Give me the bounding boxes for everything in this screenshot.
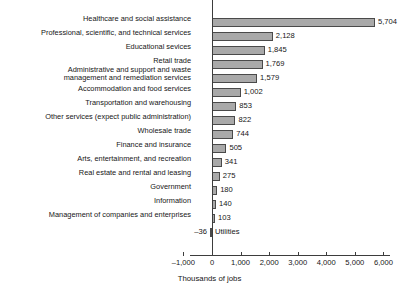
bar-value-label: 853 [239, 101, 252, 110]
bar-category-label: Wholesale trade [0, 127, 195, 135]
x-axis-tick [269, 252, 270, 256]
bar-row: Utilities–36Utilities [0, 225, 407, 239]
bar-row: Management of companies and enterprises1… [0, 211, 407, 225]
bar-value-label: 103 [218, 213, 231, 222]
bar-row: Information140 [0, 197, 407, 211]
bar-category-label: Administrative and support and waste man… [0, 66, 195, 83]
bar-value-label: 341 [225, 157, 238, 166]
bar-value-label: 180 [220, 185, 233, 194]
x-axis-tick [298, 252, 299, 256]
bar-row: Transportation and warehousing853 [0, 99, 407, 113]
bar-value-label: 1,579 [260, 73, 279, 82]
bar [212, 18, 375, 27]
bar [212, 102, 236, 111]
bar-value-label: 1,769 [266, 59, 285, 68]
bar-value-label: 140 [219, 199, 232, 208]
bar-category-label: Management of companies and enterprises [0, 211, 195, 219]
bar-category-label: Professional, scientific, and technical … [0, 29, 195, 37]
zero-axis-line [212, 0, 213, 252]
bar-category-label: Healthcare and social assistance [0, 15, 195, 23]
x-axis-tick-label: 2,000 [260, 258, 279, 267]
bar-row: Other services (expect public administra… [0, 113, 407, 127]
bar [212, 74, 257, 83]
bar-row: Healthcare and social assistance5,704 [0, 15, 407, 29]
bar-category-label: Other services (expect public administra… [0, 113, 195, 121]
bar-category-label: Arts, entertainment, and recreation [0, 155, 195, 163]
bar [212, 130, 233, 139]
x-axis-tick-label: 3,000 [288, 258, 307, 267]
bar-row: Educational sevices1,845 [0, 43, 407, 57]
bar-value-label: 505 [229, 143, 242, 152]
bar-row: Arts, entertainment, and recreation341 [0, 155, 407, 169]
bar-row: Finance and insurance505 [0, 141, 407, 155]
x-axis-tick-label: –1,000 [172, 258, 195, 267]
x-axis-tick [241, 252, 242, 256]
bar-value-label: 744 [236, 129, 249, 138]
bar [212, 116, 235, 125]
bar-value-label: 1,845 [268, 45, 287, 54]
x-axis-tick-label: 4,000 [317, 258, 336, 267]
bar-category-label: Transportation and warehousing [0, 99, 195, 107]
bar [212, 158, 222, 167]
x-axis-title-text: Thousands of jobs [178, 274, 242, 283]
bar-category-label: Finance and insurance [0, 141, 195, 149]
bar-category-label: Utilities [215, 227, 239, 236]
bar-row: Real estate and rental and leasing275 [0, 169, 407, 183]
x-axis-line [190, 255, 390, 256]
x-axis-tick [326, 252, 327, 256]
bar-category-label: Educational sevices [0, 43, 195, 51]
bar [212, 144, 226, 153]
bar-value-label: 5,704 [378, 17, 397, 26]
bar [212, 200, 216, 209]
x-axis-tick [383, 252, 384, 256]
bar-value-label: 2,128 [276, 31, 295, 40]
x-axis-tick-label: 0 [210, 258, 214, 267]
bar-value-label: 822 [238, 115, 251, 124]
plot-area: Healthcare and social assistance5,704Pro… [0, 0, 407, 252]
bar [212, 88, 241, 97]
bar [212, 172, 220, 181]
bar [212, 186, 217, 195]
bar-category-label: Real estate and rental and leasing [0, 169, 195, 177]
bar-row: Administrative and support and waste man… [0, 71, 407, 85]
x-axis-tick-label: 5,000 [345, 258, 364, 267]
bar [212, 60, 263, 69]
bar-category-label: Government [0, 183, 195, 191]
bar-row: Wholesale trade744 [0, 127, 407, 141]
bar-row: Accommodation and food services1,002 [0, 85, 407, 99]
bar [212, 32, 273, 41]
bar-value-label: –36 [194, 227, 207, 236]
bar-chart: Healthcare and social assistance5,704Pro… [0, 0, 407, 295]
x-axis-tick [355, 252, 356, 256]
bar-row: Government180 [0, 183, 407, 197]
bar-value-label: 1,002 [244, 87, 263, 96]
x-axis-tick-label: 1,000 [231, 258, 250, 267]
bar [212, 46, 265, 55]
x-axis-tick [212, 252, 213, 256]
bar-category-label: Retail trade [0, 57, 195, 65]
x-axis-tick [183, 252, 184, 256]
bar-category-label: Information [0, 197, 195, 205]
x-axis-title: Thousands of jobs [0, 274, 407, 283]
bar-value-label: 275 [223, 171, 236, 180]
x-axis-tick-label: 6,000 [374, 258, 393, 267]
bar-row: Professional, scientific, and technical … [0, 29, 407, 43]
bar-category-label: Accommodation and food services [0, 85, 195, 93]
